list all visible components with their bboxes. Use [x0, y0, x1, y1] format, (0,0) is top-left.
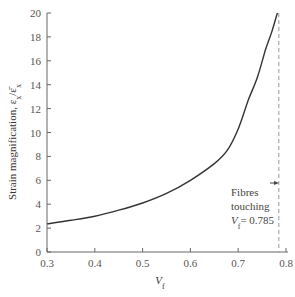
x-tick-label: 0.3 [40, 257, 54, 269]
x-tick-label: 0.5 [136, 257, 150, 269]
x-axis-title: Vf [155, 274, 165, 291]
y-tick-label: 8 [36, 150, 42, 162]
annotation-value: Vf= 0.785 [231, 214, 275, 231]
annotation-arrow-head [274, 181, 279, 185]
strain-magnification-chart: 02468101214161820 0.30.40.50.60.70.8 Str… [0, 0, 295, 297]
y-tick-label: 6 [36, 174, 42, 186]
y-tick-label: 16 [30, 55, 42, 67]
fibres-touching-annotation: Fibres touching Vf= 0.785 [231, 181, 279, 231]
y-tick-label: 4 [36, 198, 42, 210]
y-tick-label: 18 [30, 31, 42, 43]
y-tick-label: 14 [30, 79, 42, 91]
y-axis-title: Strain magnification, εx/ε̄x [6, 84, 23, 200]
x-tick-label: 0.4 [88, 257, 102, 269]
annotation-line-2: touching [231, 200, 270, 212]
y-ticks: 02468101214161820 [30, 7, 51, 258]
x-ticks: 0.30.40.50.60.70.8 [40, 248, 293, 269]
annotation-line-1: Fibres [231, 186, 259, 198]
y-tick-label: 2 [36, 222, 42, 234]
y-tick-label: 20 [30, 7, 42, 19]
y-tick-label: 12 [30, 103, 41, 115]
x-tick-label: 0.8 [279, 257, 293, 269]
x-tick-label: 0.7 [231, 257, 245, 269]
y-tick-label: 10 [30, 127, 42, 139]
x-tick-label: 0.6 [184, 257, 198, 269]
